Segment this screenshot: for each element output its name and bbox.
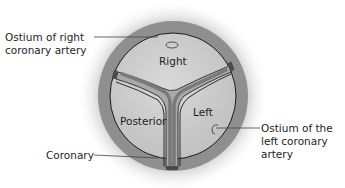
label-coronary: Coronary (46, 149, 94, 162)
cusp-label-posterior: Posterior (120, 115, 166, 127)
label-ostium-right: Ostium of right coronary artery (5, 31, 87, 57)
cusp-label-left: Left (193, 106, 213, 118)
cusp-label-right: Right (159, 55, 187, 67)
label-line: artery (261, 148, 333, 161)
label-line: left coronary (261, 135, 333, 148)
label-ostium-left: Ostium of the left coronary artery (261, 122, 333, 161)
label-line: coronary artery (5, 44, 87, 57)
label-line: Ostium of the (261, 122, 333, 135)
label-line: Ostium of right (5, 31, 87, 44)
